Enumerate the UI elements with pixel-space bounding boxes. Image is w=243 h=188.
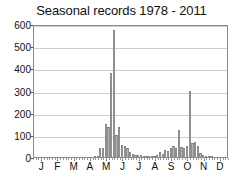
x-minor-tick-mark <box>193 158 194 160</box>
chart-title: Seasonal records 1978 - 2011 <box>0 3 243 18</box>
x-minor-tick-mark <box>93 158 94 160</box>
y-tick-label: 600 <box>0 20 31 31</box>
x-minor-tick-mark <box>158 158 159 160</box>
x-minor-tick-mark <box>60 158 61 160</box>
x-minor-tick-mark <box>125 158 126 160</box>
x-minor-tick-mark <box>220 158 221 160</box>
x-minor-tick-mark <box>36 158 37 160</box>
x-minor-tick-mark <box>168 158 169 160</box>
x-tick-label: D <box>216 161 223 172</box>
x-minor-tick-mark <box>87 158 88 160</box>
x-minor-tick-mark <box>152 158 153 160</box>
x-minor-tick-mark <box>114 158 115 160</box>
x-minor-tick-mark <box>74 158 75 160</box>
x-tick-label: M <box>102 161 110 172</box>
x-minor-tick-mark <box>179 158 180 160</box>
x-minor-tick-mark <box>68 158 69 160</box>
x-minor-tick-mark <box>103 158 104 160</box>
chart-figure: Seasonal records 1978 - 2011 01002003004… <box>0 0 243 188</box>
x-minor-tick-mark <box>212 158 213 160</box>
x-minor-tick-mark <box>71 158 72 160</box>
x-minor-tick-mark <box>76 158 77 160</box>
y-tick-label: 100 <box>0 130 31 141</box>
x-minor-tick-mark <box>95 158 96 160</box>
x-minor-tick-mark <box>47 158 48 160</box>
x-minor-tick-mark <box>38 158 39 160</box>
x-minor-tick-mark <box>217 158 218 160</box>
x-minor-tick-mark <box>33 158 34 160</box>
x-minor-tick-mark <box>206 158 207 160</box>
x-minor-tick-mark <box>131 158 132 160</box>
x-minor-tick-mark <box>101 158 102 160</box>
x-tick-label: J <box>120 161 125 172</box>
x-axis: JFMAMJJASOND <box>33 161 228 177</box>
y-axis: 0100200300400500600 <box>0 0 31 188</box>
x-minor-tick-mark <box>228 158 229 160</box>
x-minor-tick-mark <box>225 158 226 160</box>
x-minor-tick-mark <box>166 158 167 160</box>
x-minor-tick-mark <box>55 158 56 160</box>
x-minor-tick-mark <box>41 158 42 160</box>
x-tick-label: S <box>168 161 175 172</box>
bar <box>210 156 212 157</box>
x-minor-tick-mark <box>185 158 186 160</box>
x-minor-tick-mark <box>147 158 148 160</box>
x-minor-tick-mark <box>44 158 45 160</box>
x-minor-tick-mark <box>163 158 164 160</box>
x-tick-label: M <box>69 161 77 172</box>
x-minor-tick-mark <box>198 158 199 160</box>
y-tick-mark <box>30 25 33 26</box>
x-minor-tick-mark <box>139 158 140 160</box>
x-minor-tick-mark <box>122 158 123 160</box>
x-minor-tick-mark <box>112 158 113 160</box>
y-tick-label: 200 <box>0 108 31 119</box>
x-minor-tick-mark <box>63 158 64 160</box>
y-tick-label: 400 <box>0 64 31 75</box>
x-minor-tick-mark <box>90 158 91 160</box>
y-tick-mark <box>30 114 33 115</box>
x-minor-tick-mark <box>82 158 83 160</box>
x-minor-tick-mark <box>120 158 121 160</box>
x-minor-tick-mark <box>133 158 134 160</box>
x-minor-tick-mark <box>141 158 142 160</box>
x-minor-tick-mark <box>196 158 197 160</box>
x-minor-tick-mark <box>128 158 129 160</box>
x-minor-tick-mark <box>201 158 202 160</box>
x-tick-label: N <box>200 161 207 172</box>
bar-series <box>34 26 227 157</box>
x-tick-label: J <box>39 161 44 172</box>
x-tick-label: A <box>87 161 94 172</box>
x-minor-tick-mark <box>223 158 224 160</box>
x-minor-tick-mark <box>182 158 183 160</box>
x-minor-tick-mark <box>117 158 118 160</box>
y-tick-label: 300 <box>0 86 31 97</box>
x-minor-tick-mark <box>84 158 85 160</box>
x-minor-tick-mark <box>79 158 80 160</box>
x-minor-tick-mark <box>171 158 172 160</box>
y-tick-mark <box>30 136 33 137</box>
x-minor-tick-mark <box>52 158 53 160</box>
x-minor-tick-mark <box>190 158 191 160</box>
y-tick-label: 0 <box>0 153 31 164</box>
x-minor-tick-mark <box>106 158 107 160</box>
y-tick-label: 500 <box>0 42 31 53</box>
x-minor-tick-mark <box>66 158 67 160</box>
x-minor-tick-mark <box>209 158 210 160</box>
x-minor-tick-mark <box>204 158 205 160</box>
x-minor-tick-mark <box>214 158 215 160</box>
x-minor-tick-mark <box>155 158 156 160</box>
y-tick-mark <box>30 47 33 48</box>
x-tick-label: O <box>183 161 191 172</box>
y-tick-mark <box>30 69 33 70</box>
plot-area <box>33 25 228 158</box>
x-minor-tick-mark <box>109 158 110 160</box>
x-minor-tick-mark <box>49 158 50 160</box>
x-tick-label: A <box>152 161 159 172</box>
x-minor-tick-mark <box>57 158 58 160</box>
x-minor-tick-mark <box>149 158 150 160</box>
y-tick-mark <box>30 92 33 93</box>
x-tick-label: J <box>136 161 141 172</box>
x-minor-tick-mark <box>160 158 161 160</box>
x-minor-tick-mark <box>177 158 178 160</box>
x-minor-tick-mark <box>144 158 145 160</box>
